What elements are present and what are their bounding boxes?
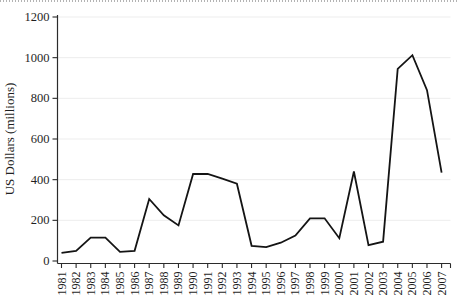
x-tick-label: 1982 [69, 272, 83, 296]
y-tick-label: 200 [31, 213, 50, 227]
x-tick-label: 1998 [303, 272, 317, 296]
y-tick-label: 1000 [25, 51, 50, 65]
x-tick-label: 1984 [98, 272, 112, 296]
x-tick-label: 2007 [435, 272, 449, 296]
x-tick-label: 1999 [318, 272, 332, 296]
data-line [62, 55, 442, 253]
x-tick-label: 2004 [391, 272, 405, 296]
x-tick-label: 1987 [142, 272, 156, 296]
x-tick-label: 1993 [230, 272, 244, 296]
page: 0200400600800100012001981198219831984198… [0, 0, 459, 301]
x-tick-label: 2006 [420, 272, 434, 296]
x-tick-label: 1992 [215, 272, 229, 296]
y-tick-label: 0 [43, 254, 49, 268]
x-tick-label: 1996 [274, 272, 288, 296]
x-tick-label: 1990 [186, 272, 200, 296]
y-tick-label: 1200 [25, 10, 50, 24]
x-tick-label: 2000 [332, 272, 346, 296]
x-tick-label: 1989 [171, 272, 185, 296]
x-tick-label: 1981 [55, 272, 69, 296]
x-tick-label: 1995 [259, 272, 273, 296]
x-tick-label: 1988 [157, 272, 171, 296]
line-chart: 0200400600800100012001981198219831984198… [0, 0, 459, 301]
y-tick-label: 800 [31, 91, 50, 105]
x-tick-label: 2005 [405, 272, 419, 296]
x-tick-label: 2003 [376, 272, 390, 296]
x-tick-label: 1994 [245, 272, 259, 296]
x-tick-label: 1986 [128, 272, 142, 296]
x-tick-label: 2001 [347, 272, 361, 296]
x-tick-label: 1983 [84, 272, 98, 296]
y-tick-label: 600 [31, 132, 50, 146]
x-tick-label: 1991 [201, 272, 215, 296]
x-tick-label: 2002 [362, 272, 376, 296]
chart-canvas: 0200400600800100012001981198219831984198… [0, 0, 459, 301]
x-tick-label: 1985 [113, 272, 127, 296]
x-tick-label: 1997 [288, 272, 302, 296]
y-tick-label: 400 [31, 173, 50, 187]
y-axis-title: US Dollars (millions) [2, 83, 17, 196]
